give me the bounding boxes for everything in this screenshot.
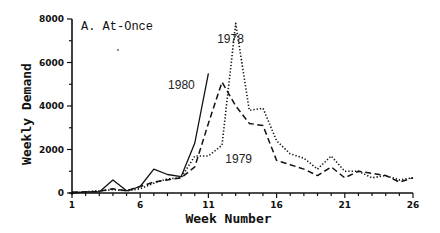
x-tick-label: 21 xyxy=(339,200,352,210)
x-tick-label: 6 xyxy=(137,200,143,210)
y-tick-label: 6000 xyxy=(39,58,64,68)
series-label-1978: 1978 xyxy=(217,32,244,46)
y-tick-label: 2000 xyxy=(39,145,64,155)
series-label-1980: 1980 xyxy=(168,78,195,92)
y-tick-label: 8000 xyxy=(39,14,64,24)
y-tick-label: 0 xyxy=(58,188,64,198)
x-tick-label: 16 xyxy=(270,200,283,210)
y-tick-label: 4000 xyxy=(39,101,64,111)
scan-speck xyxy=(117,49,119,51)
series-line-1979 xyxy=(72,82,413,192)
x-tick-label: 11 xyxy=(202,200,215,210)
x-axis-label: Week Number xyxy=(185,211,271,226)
x-tick-label: 26 xyxy=(407,200,420,210)
series-line-1978 xyxy=(72,23,413,193)
chart-title: A. At-Once xyxy=(81,20,153,34)
series-label-1979: 1979 xyxy=(225,152,252,166)
line-chart: 020004000600080001611162126 Week NumberW… xyxy=(0,0,440,233)
series-lines xyxy=(72,23,413,193)
y-axis-label: Weekly Demand xyxy=(19,63,34,165)
x-tick-label: 1 xyxy=(69,200,75,210)
